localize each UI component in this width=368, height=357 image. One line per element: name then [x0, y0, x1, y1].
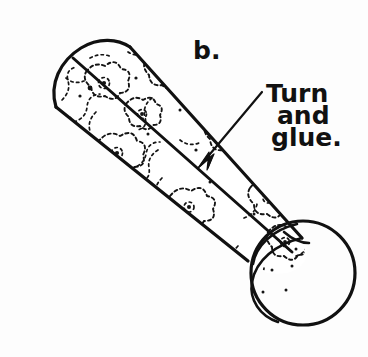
step-label-b: b.	[193, 36, 220, 65]
tube-diagram-illustration	[0, 0, 368, 357]
caption-line-glue: glue.	[271, 123, 342, 152]
figure-canvas: b. Turn and glue.	[0, 0, 368, 357]
tube-open-end	[251, 221, 355, 325]
seam-line	[73, 58, 292, 252]
